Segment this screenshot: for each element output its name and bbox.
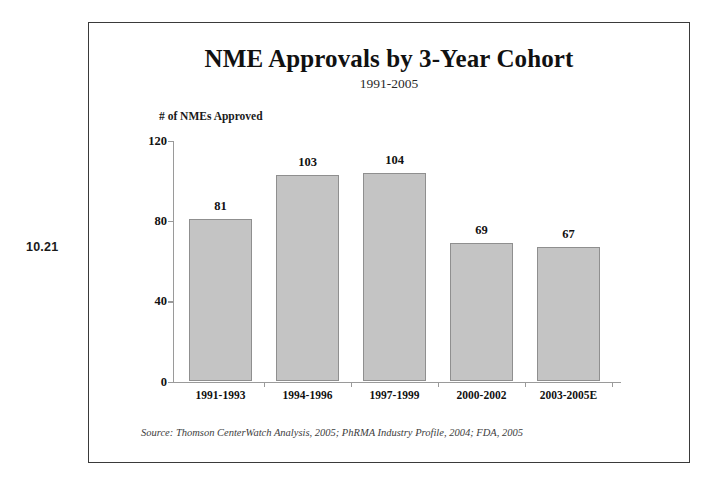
y-tick-label: 120 bbox=[127, 134, 167, 149]
source-note: Source: Thomson CenterWatch Analysis, 20… bbox=[141, 427, 523, 438]
y-tick-label: 40 bbox=[127, 294, 167, 309]
y-axis-line bbox=[173, 141, 174, 382]
y-tick-label: 80 bbox=[127, 214, 167, 229]
y-tick-mark bbox=[168, 301, 173, 302]
category-label: 1994-1996 bbox=[264, 389, 351, 401]
bar-value-label: 104 bbox=[363, 153, 426, 168]
bar bbox=[537, 247, 600, 381]
x-tick-mark bbox=[525, 382, 526, 387]
plot-area: 04080120 811031046967 1991-19931994-1996… bbox=[89, 23, 691, 464]
x-tick-mark bbox=[612, 382, 613, 387]
y-tick-mark bbox=[168, 382, 173, 383]
x-tick-mark bbox=[264, 382, 265, 387]
category-label: 2000-2002 bbox=[438, 389, 525, 401]
slide-number: 10.21 bbox=[26, 240, 58, 254]
slide-frame: NME Approvals by 3-Year Cohort 1991-2005… bbox=[88, 22, 690, 463]
x-tick-mark bbox=[351, 382, 352, 387]
category-label: 1997-1999 bbox=[351, 389, 438, 401]
y-tick-mark bbox=[168, 141, 173, 142]
bar bbox=[276, 175, 339, 381]
y-tick-mark bbox=[168, 221, 173, 222]
bar-value-label: 103 bbox=[276, 155, 339, 170]
bar-value-label: 67 bbox=[537, 227, 600, 242]
category-label: 1991-1993 bbox=[177, 389, 264, 401]
bar-value-label: 69 bbox=[450, 223, 513, 238]
x-tick-mark bbox=[438, 382, 439, 387]
category-label: 2003-2005E bbox=[525, 389, 612, 401]
y-tick-label: 0 bbox=[127, 374, 167, 389]
bar bbox=[189, 219, 252, 381]
x-axis-line bbox=[173, 382, 621, 383]
bar bbox=[450, 243, 513, 381]
bar-value-label: 81 bbox=[189, 199, 252, 214]
bar bbox=[363, 173, 426, 381]
